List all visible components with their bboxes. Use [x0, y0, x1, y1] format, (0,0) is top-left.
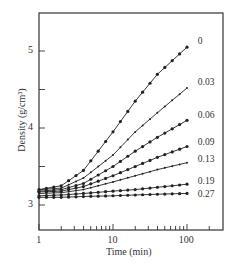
data-point-marker	[163, 66, 166, 69]
data-point-marker	[163, 131, 166, 134]
data-point-marker	[119, 160, 122, 163]
data-point-marker	[37, 196, 40, 199]
data-point-marker	[82, 182, 85, 185]
data-point-marker	[68, 184, 70, 186]
x-tick-label: 100	[179, 235, 194, 245]
data-point-marker	[163, 153, 166, 156]
data-point-marker	[178, 192, 181, 195]
data-point-marker	[74, 192, 77, 195]
data-point-marker	[53, 192, 55, 194]
data-point-marker	[127, 177, 129, 179]
data-point-marker	[185, 119, 188, 122]
data-point-marker	[142, 173, 144, 175]
data-point-marker	[134, 165, 137, 168]
data-point-marker	[126, 155, 129, 158]
data-point-marker	[126, 168, 129, 171]
data-point-marker	[163, 192, 166, 195]
data-point-marker	[75, 180, 77, 182]
data-point-marker	[156, 186, 159, 189]
series-label: 0.19	[198, 177, 215, 187]
data-point-marker	[171, 165, 173, 167]
data-point-marker	[126, 189, 129, 192]
data-point-marker	[149, 118, 151, 120]
data-point-marker	[74, 186, 77, 189]
data-point-marker	[179, 93, 181, 95]
data-point-marker	[112, 154, 114, 156]
data-point-marker	[67, 179, 70, 182]
data-point-marker	[171, 192, 174, 195]
data-point-marker	[148, 193, 151, 196]
data-point-marker	[134, 188, 137, 191]
data-point-marker	[178, 148, 181, 151]
data-point-marker	[111, 174, 114, 177]
data-point-marker	[90, 171, 92, 173]
data-point-marker	[82, 169, 85, 172]
data-point-marker	[148, 186, 151, 189]
data-point-marker	[82, 189, 84, 191]
series-0	[37, 46, 188, 192]
x-axis-title: Time (min)	[106, 247, 151, 257]
data-point-marker	[60, 184, 63, 187]
data-point-marker	[97, 166, 99, 168]
series-label: 0.27	[198, 190, 215, 200]
data-point-marker	[156, 136, 159, 139]
data-point-marker	[141, 193, 144, 196]
data-point-marker	[156, 73, 159, 76]
data-point-marker	[82, 185, 85, 188]
data-point-marker	[111, 190, 114, 193]
data-point-marker	[156, 193, 159, 196]
data-point-marker	[127, 139, 129, 141]
data-point-marker	[74, 174, 77, 177]
data-point-marker	[97, 180, 100, 183]
data-point-marker	[148, 159, 151, 162]
data-point-marker	[89, 178, 92, 181]
data-point-marker	[134, 100, 137, 103]
data-point-marker	[185, 192, 188, 195]
data-point-marker	[82, 177, 84, 179]
data-point-marker	[171, 150, 174, 153]
data-point-marker	[178, 183, 181, 186]
data-point-marker	[126, 110, 129, 113]
data-point-marker	[171, 59, 174, 62]
data-point-marker	[186, 162, 188, 164]
data-point-marker	[104, 194, 107, 197]
series-label: 0.03	[198, 78, 215, 88]
data-point-marker	[89, 159, 92, 162]
data-point-marker	[52, 196, 55, 199]
data-point-marker	[148, 82, 151, 85]
data-point-marker	[164, 106, 166, 108]
data-point-marker	[105, 160, 107, 162]
series-label: 0.06	[198, 111, 215, 121]
data-point-marker	[186, 87, 188, 89]
data-point-marker	[179, 163, 181, 165]
data-point-marker	[111, 130, 114, 133]
data-point-marker	[111, 165, 114, 168]
data-point-marker	[164, 167, 166, 169]
x-tick-label: 10	[108, 235, 118, 245]
data-point-marker	[119, 194, 122, 197]
data-point-marker	[134, 175, 136, 177]
data-point-marker	[60, 192, 62, 194]
series-label: 0.09	[198, 138, 215, 148]
series-label: 0	[198, 37, 203, 47]
data-point-marker	[148, 140, 151, 143]
data-point-marker	[97, 173, 100, 176]
data-point-marker	[82, 192, 85, 195]
data-point-marker	[112, 181, 114, 183]
data-point-marker	[67, 195, 70, 198]
data-point-marker	[104, 169, 107, 172]
data-point-marker	[141, 187, 144, 190]
data-series	[37, 46, 188, 199]
data-point-marker	[45, 196, 48, 199]
data-point-marker	[74, 195, 77, 198]
data-point-marker	[119, 189, 122, 192]
data-point-marker	[156, 112, 158, 114]
data-point-marker	[105, 183, 107, 185]
data-point-marker	[141, 145, 144, 148]
data-point-marker	[171, 127, 174, 130]
data-point-marker	[97, 191, 100, 194]
data-point-marker	[97, 185, 99, 187]
data-point-marker	[82, 195, 85, 198]
data-point-marker	[185, 145, 188, 148]
data-point-marker	[149, 171, 151, 173]
